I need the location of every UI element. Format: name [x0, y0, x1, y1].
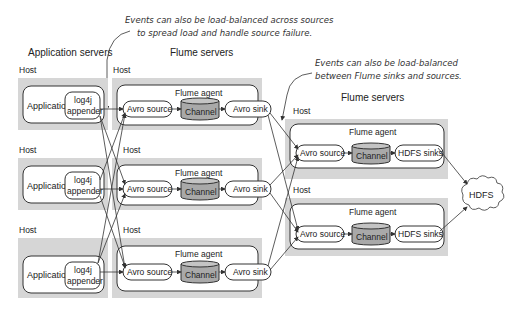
channel-top	[181, 261, 219, 267]
channel-label: Channel	[356, 151, 388, 161]
channel-top	[352, 143, 390, 149]
avro-source-label: Avro source	[127, 104, 172, 114]
flume-architecture-diagram: Events can also be load-balanced across …	[0, 0, 513, 310]
hdfs-label: HDFS	[469, 190, 494, 200]
avro-source-label: Avro source	[127, 184, 172, 194]
annotation-top-line2: to spread load and handle source failure…	[137, 28, 312, 38]
avro-source-label: Avro source	[300, 229, 345, 239]
annotation-right-line2: between Flume sinks and sources.	[315, 71, 462, 81]
flume-agent-label: Flume agent	[349, 127, 397, 137]
channel-top	[352, 223, 390, 229]
avro-sink-label: Avro sink	[233, 267, 269, 277]
avro-sink-label: Avro sink	[233, 184, 269, 194]
host-label: Host	[113, 65, 131, 75]
appender-label: appender	[67, 186, 103, 196]
application-label: Application	[27, 101, 71, 111]
flume-agent-label: Flume agent	[175, 249, 223, 259]
host-label: Host	[293, 106, 311, 116]
appender-label: appender	[67, 276, 103, 286]
flume-agent-label: Flume agent	[175, 168, 223, 178]
annotation-right-line1: Events can also be load-balanced	[315, 58, 458, 68]
channel-label: Channel	[185, 187, 217, 197]
host-label: Host	[123, 145, 141, 155]
avro-source-label: Avro source	[127, 267, 172, 277]
hdfs-sinks-label: HDFS sinks	[398, 148, 443, 158]
avro-source-label: Avro source	[300, 148, 345, 158]
channel-top	[181, 178, 219, 184]
channel-label: Channel	[185, 270, 217, 280]
log4j-label: log4j	[74, 265, 92, 275]
section-flume-servers-right: Flume servers	[341, 92, 404, 103]
application-label: Application	[27, 270, 71, 280]
flume-agent-label: Flume agent	[175, 88, 223, 98]
annotation-top-line1: Events can also be load-balanced across …	[125, 15, 334, 25]
host-label: Host	[123, 225, 141, 235]
host-label: Host	[19, 225, 37, 235]
log4j-label: log4j	[74, 175, 92, 185]
channel-label: Channel	[185, 107, 217, 117]
hdfs-sinks-label: HDFS sinks	[398, 229, 443, 239]
section-flume-servers-left: Flume servers	[170, 47, 233, 58]
channel-label: Channel	[356, 232, 388, 242]
log4j-label: log4j	[74, 95, 92, 105]
flume-agent-label: Flume agent	[349, 207, 397, 217]
host-label: Host	[19, 145, 37, 155]
channel-top	[181, 98, 219, 104]
application-label: Application	[27, 181, 71, 191]
host-label: Host	[19, 65, 37, 75]
avro-sink-label: Avro sink	[233, 104, 269, 114]
host-label: Host	[293, 185, 311, 195]
section-application-servers: Application servers	[28, 47, 112, 58]
appender-label: appender	[67, 106, 103, 116]
